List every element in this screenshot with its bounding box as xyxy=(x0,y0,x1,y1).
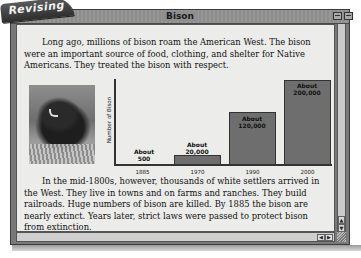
minimize-button[interactable] xyxy=(333,12,342,20)
x-axis xyxy=(114,164,332,166)
bison-photo xyxy=(29,85,95,164)
bar-label-line2: 500 xyxy=(118,155,170,162)
y-axis xyxy=(114,79,116,165)
bar-label-1970: About 20,000 xyxy=(171,141,223,155)
revising-tab-label: Revising xyxy=(8,0,65,17)
window-shadow xyxy=(12,245,361,251)
bar-label-1885: About 500 xyxy=(118,148,170,162)
content-pane: Long ago, millions of bison roam the Ame… xyxy=(16,24,335,232)
bar-label-line2: 20,000 xyxy=(171,148,223,155)
scroll-up-arrow-icon[interactable]: ▲ xyxy=(338,216,345,224)
scroll-down-arrow-icon[interactable]: ▼ xyxy=(338,224,345,232)
bar-label-line2: 120,000 xyxy=(226,122,278,129)
scroll-right-arrow-icon[interactable]: ▶ xyxy=(325,234,333,241)
x-tick-2000: 2000 xyxy=(284,169,331,175)
paragraph-1: Long ago, millions of bison roam the Ame… xyxy=(24,37,324,72)
bar-label-line1: About xyxy=(226,115,278,122)
bar-label-line1: About xyxy=(171,141,223,148)
bar-label-1990: About 120,000 xyxy=(226,115,278,129)
resize-grip-icon[interactable] xyxy=(337,232,346,242)
reading-window: Bison Long ago, millions of bison roam t… xyxy=(10,9,350,245)
scroll-left-arrow-icon[interactable]: ◀ xyxy=(317,234,325,241)
paragraph-2: In the mid-1800s, however, thousands of … xyxy=(24,176,324,232)
grass-shape xyxy=(29,144,95,164)
bar-label-line2: 200,000 xyxy=(281,89,333,96)
horizontal-scrollbar[interactable]: ◀ ▶ xyxy=(16,232,335,242)
x-tick-1990: 1990 xyxy=(229,169,276,175)
vertical-scrollbar[interactable]: ▲ ▼ xyxy=(337,24,346,232)
bar-label-line1: About xyxy=(281,82,333,89)
x-tick-1970: 1970 xyxy=(174,169,221,175)
x-tick-1885: 1885 xyxy=(119,169,166,175)
y-axis-label: Number of Bison xyxy=(106,90,112,150)
window-title-text: Bison xyxy=(162,11,198,21)
bar-label-line1: About xyxy=(118,148,170,155)
bar-label-2000: About 200,000 xyxy=(281,82,333,96)
bison-horn-shape xyxy=(49,109,58,117)
bison-population-chart: Number of Bison About 500 About 20,000 A… xyxy=(105,79,335,184)
maximize-button[interactable] xyxy=(344,12,353,20)
